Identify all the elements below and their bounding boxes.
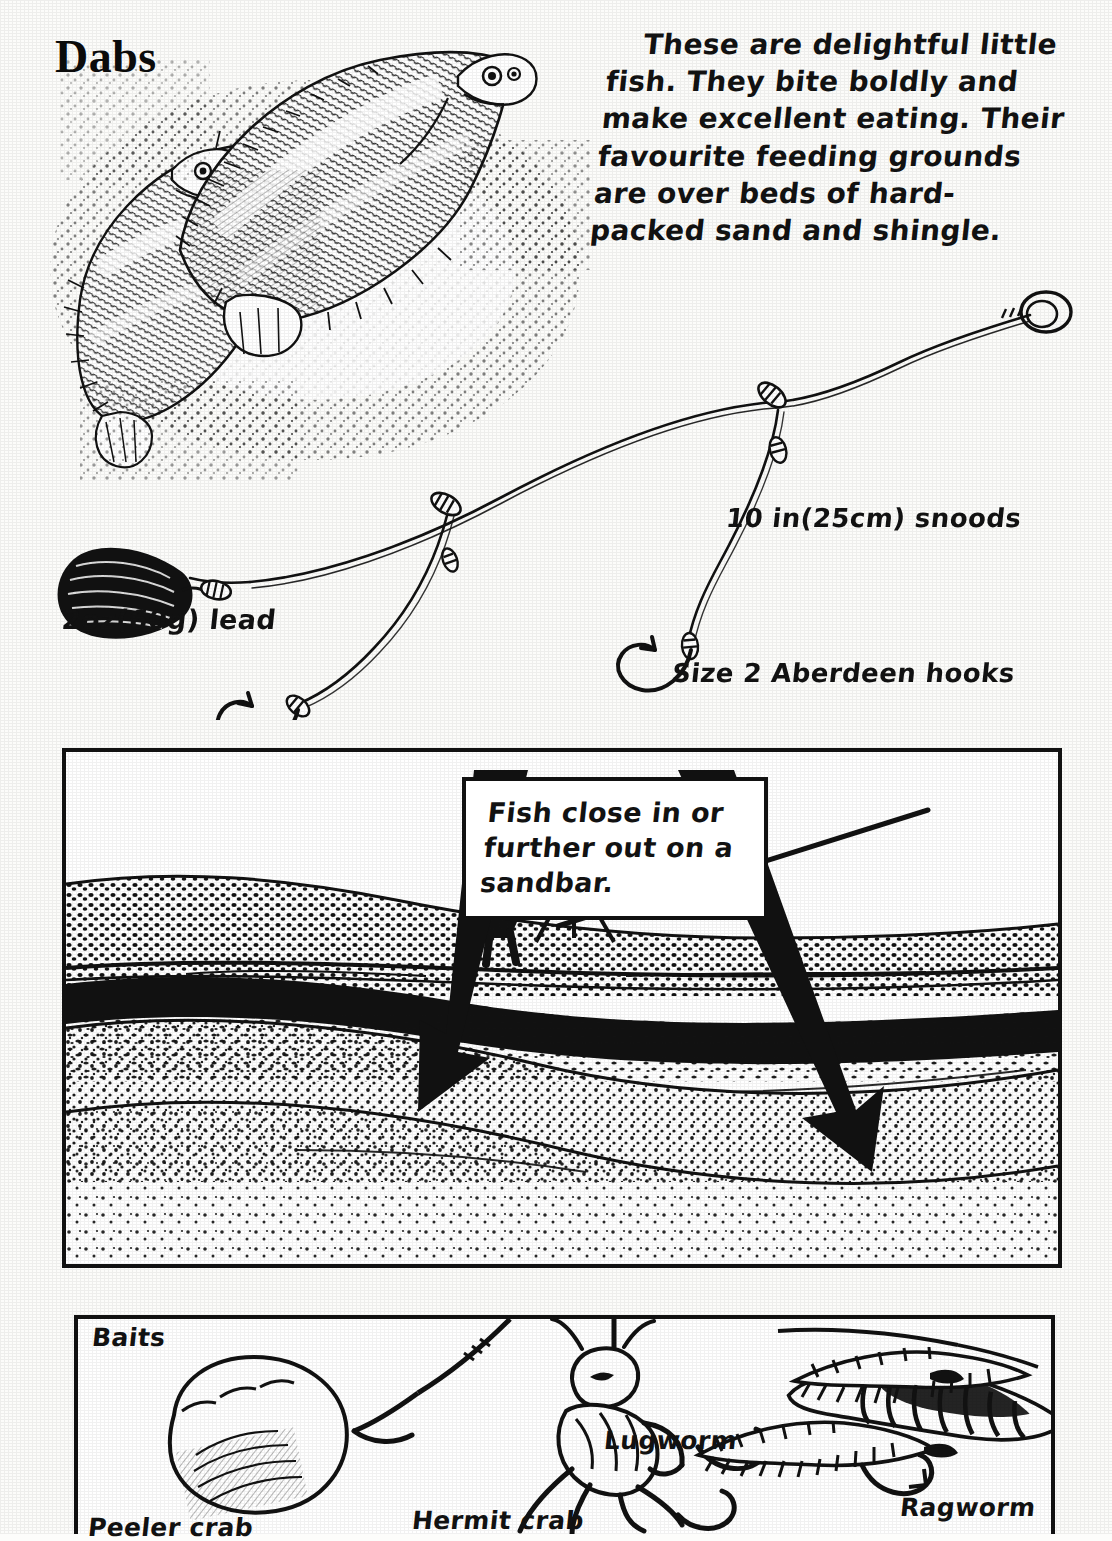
bait-label-hermit-crab: Hermit crab bbox=[410, 1505, 585, 1538]
baits-heading: Baits bbox=[90, 1322, 167, 1355]
lead-label: 2oz(60g) lead bbox=[60, 602, 278, 637]
callout-text: Fish close in or further out on a sandba… bbox=[478, 795, 761, 900]
intro-paragraph: These are delightful little fish. They b… bbox=[588, 26, 1081, 249]
snoods-label: 10 in(25cm) snoods bbox=[724, 502, 1023, 536]
hook-lower bbox=[218, 693, 298, 720]
bait-label-peeler-crab: Peeler crab bbox=[86, 1512, 255, 1541]
bait-label-ragworm: Ragworm bbox=[898, 1492, 1037, 1525]
hooks-label: Size 2 Aberdeen hooks bbox=[670, 657, 1016, 691]
bait-label-lugworm: Lugworm bbox=[602, 1425, 738, 1458]
callout-box: Fish close in or further out on a sandba… bbox=[462, 777, 768, 920]
